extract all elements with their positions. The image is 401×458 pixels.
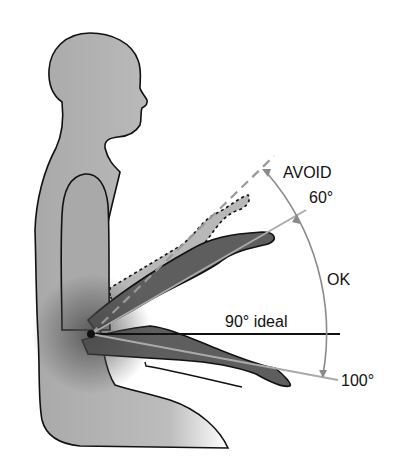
angle-60-label: 60° bbox=[309, 189, 333, 206]
avoid-label: AVOID bbox=[283, 164, 332, 181]
elbow-pivot bbox=[87, 330, 95, 338]
arm-angle-diagram: AVOID 60° OK 90° ideal 100° bbox=[0, 0, 401, 458]
angle-100-label: 100° bbox=[341, 372, 374, 389]
ok-label: OK bbox=[327, 271, 350, 288]
ideal-label: 90° ideal bbox=[225, 313, 287, 330]
